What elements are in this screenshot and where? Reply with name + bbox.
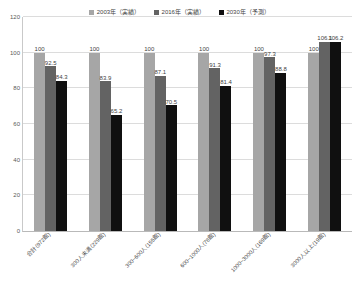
y-axis-tick-label: 120 (10, 14, 20, 20)
bar[interactable]: 87.1 (155, 76, 166, 231)
bar-group: 10092.584.3 (23, 17, 78, 231)
bar-value-label: 70.5 (165, 99, 177, 105)
bar[interactable]: 88.8 (275, 73, 286, 231)
bar-value-label: 100 (309, 46, 319, 52)
bar[interactable]: 97.3 (264, 57, 275, 231)
bar-value-label: 100 (144, 46, 154, 52)
bar-value-label: 84.3 (56, 74, 68, 80)
y-axis-tick-label: 60 (13, 121, 20, 127)
bar[interactable]: 91.3 (209, 68, 220, 231)
chart-legend: 2003年（実績） 2016年（実績） 2030年（予測） (0, 9, 359, 15)
bar-slot: 100 (144, 17, 155, 231)
bar-slot: 100 (198, 17, 209, 231)
bar[interactable]: 106.1 (319, 42, 330, 231)
bar-group: 10083.965.2 (78, 17, 133, 231)
bar[interactable]: 100 (144, 53, 155, 231)
bar[interactable]: 83.9 (100, 81, 111, 231)
y-axis-tick-label: 0 (17, 228, 20, 234)
bar[interactable]: 100 (34, 53, 45, 231)
bar[interactable]: 84.3 (56, 81, 67, 231)
bar-value-label: 100 (199, 46, 209, 52)
bar-group: 10097.388.8 (242, 17, 297, 231)
bar-slot: 83.9 (100, 17, 111, 231)
bar-slot: 91.3 (209, 17, 220, 231)
legend-item-2016[interactable]: 2016年（実績） (154, 9, 205, 15)
bar[interactable]: 100 (89, 53, 100, 231)
bar-slot: 100 (89, 17, 100, 231)
legend-label-2016: 2016年（実績） (162, 9, 205, 15)
bar-value-label: 83.9 (100, 75, 112, 81)
bar-value-label: 100 (254, 46, 264, 52)
bar-slot: 88.8 (275, 17, 286, 231)
x-axis-label-slot: 1000~3000人(169館) (242, 232, 297, 281)
legend-item-2030[interactable]: 2030年（予測） (219, 9, 270, 15)
y-axis-tick-label: 40 (13, 157, 20, 163)
bar-slot: 84.3 (56, 17, 67, 231)
bar-slot: 70.5 (166, 17, 177, 231)
bar-group: 10087.170.5 (133, 17, 188, 231)
legend-item-2003[interactable]: 2003年（実績） (89, 9, 140, 15)
y-axis-tick-label: 20 (13, 192, 20, 198)
bar[interactable]: 92.5 (45, 66, 56, 231)
bar-value-label: 100 (89, 46, 99, 52)
bar-slot: 100 (308, 17, 319, 231)
bar[interactable]: 106.2 (330, 42, 341, 231)
bar-slot: 65.2 (111, 17, 122, 231)
bar-slot: 87.1 (155, 17, 166, 231)
bar-value-label: 81.4 (220, 79, 232, 85)
bar-value-label: 106.2 (328, 35, 343, 41)
bar-slot: 92.5 (45, 17, 56, 231)
bar-slot: 97.3 (264, 17, 275, 231)
bar-value-label: 92.5 (45, 60, 57, 66)
bar[interactable]: 81.4 (220, 86, 231, 231)
bar-value-label: 100 (35, 46, 45, 52)
bar[interactable]: 100 (308, 53, 319, 231)
x-axis-labels: 合計(972館)300人未満(229館)300~600人(155館)600~10… (22, 232, 352, 281)
bar-slot: 106.1 (319, 17, 330, 231)
bar-value-label: 87.1 (154, 69, 166, 75)
bar-value-label: 91.3 (209, 62, 221, 68)
bar-chart: 2003年（実績） 2016年（実績） 2030年（予測） 0204060801… (0, 0, 359, 281)
bar-slot: 106.2 (330, 17, 341, 231)
legend-swatch-2003 (89, 10, 94, 15)
legend-swatch-2030 (219, 10, 224, 15)
y-axis-tick-label: 100 (10, 50, 20, 56)
bar[interactable]: 100 (198, 53, 209, 231)
legend-label-2003: 2003年（実績） (97, 9, 140, 15)
y-axis-tick-label: 80 (13, 85, 20, 91)
bar-group: 10091.381.4 (187, 17, 242, 231)
bar-slot: 100 (253, 17, 264, 231)
bar-value-label: 97.3 (264, 51, 276, 57)
x-axis-label-slot: 300~600人(155館) (132, 232, 187, 281)
bar-slot: 100 (34, 17, 45, 231)
bar-value-label: 88.8 (275, 66, 287, 72)
x-axis-label-slot: 合計(972館) (22, 232, 77, 281)
legend-label-2030: 2030年（予測） (226, 9, 269, 15)
x-axis-label-slot: 300人未満(229館) (77, 232, 132, 281)
legend-swatch-2016 (154, 10, 159, 15)
x-axis-label-slot: 3000人以上(19館) (297, 232, 352, 281)
bar[interactable]: 70.5 (166, 105, 177, 231)
bar-value-label: 65.2 (111, 108, 123, 114)
bar-slot: 81.4 (220, 17, 231, 231)
bar[interactable]: 100 (253, 53, 264, 231)
